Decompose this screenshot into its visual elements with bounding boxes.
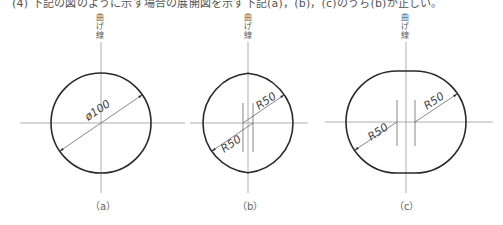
bend-label-char: 曲 — [96, 12, 104, 22]
bend-label-char: 曲 — [244, 12, 252, 22]
diameter-dimension-text: ø100 — [82, 97, 113, 124]
bend-line-label-c: 曲 げ 線 — [401, 12, 409, 40]
bend-label-char: 曲 — [401, 12, 409, 22]
bend-line-label-a: 曲 げ 線 — [96, 12, 104, 40]
figure-a: 曲 げ 線 ø100 （a） — [20, 12, 185, 212]
bend-label-char: げ — [244, 22, 252, 31]
figure-label-a: （a） — [90, 201, 116, 212]
figure-label-b: （b） — [237, 201, 263, 212]
figure-label-c: （c） — [394, 201, 420, 212]
bend-label-char: げ — [96, 22, 104, 31]
bend-label-char: 線 — [401, 30, 409, 40]
bend-line-label-b: 曲 げ 線 — [244, 12, 252, 40]
figure-b: 曲 げ 線 R50 R50 （b） — [190, 12, 308, 212]
bend-label-char: 線 — [244, 30, 252, 40]
bend-label-char: げ — [401, 22, 409, 31]
radius-dimension-text-upper: R50 — [253, 90, 278, 113]
diagram-canvas: 曲 げ 線 ø100 （a） 曲 げ 線 R50 R50 （b） 曲 げ — [0, 0, 503, 225]
bend-label-char: 線 — [96, 30, 104, 40]
figure-c: 曲 げ 線 R50 R50 （c） — [325, 12, 493, 212]
radius-dimension-text-lower: R50 — [218, 133, 243, 156]
radius-dimension-text-left: R50 — [365, 121, 390, 144]
